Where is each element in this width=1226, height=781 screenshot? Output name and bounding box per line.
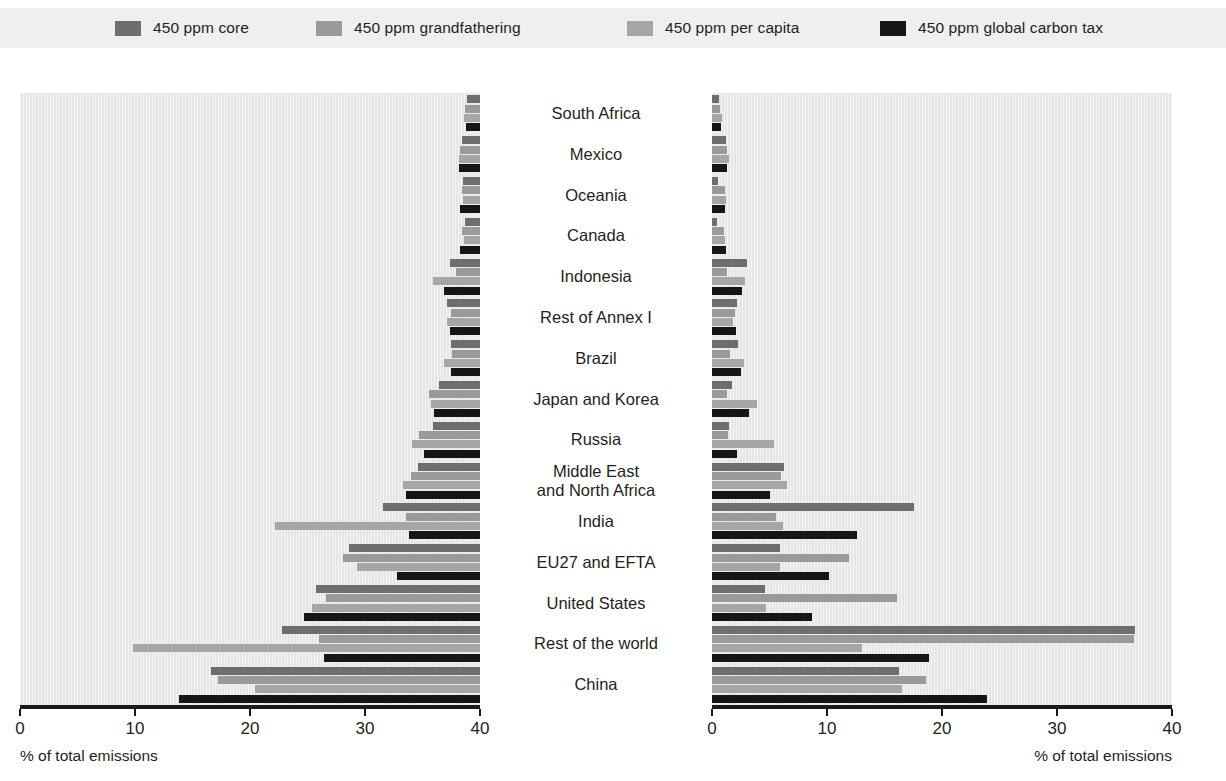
bar-group-row <box>712 134 1172 175</box>
bar-group-row <box>20 460 480 501</box>
bar-group-row <box>20 542 480 583</box>
bar <box>349 544 480 552</box>
bar <box>712 186 725 194</box>
bar <box>466 123 480 131</box>
bar-group-row <box>20 623 480 664</box>
bar <box>712 340 738 348</box>
bar <box>255 685 480 693</box>
bar <box>712 95 719 103</box>
bar-group-row <box>712 583 1172 624</box>
axis-tick <box>249 709 251 716</box>
bar <box>712 123 721 131</box>
bar <box>406 513 480 521</box>
axis-tick <box>19 709 21 716</box>
axis-caption: % of total emissions <box>1034 747 1172 765</box>
bar <box>447 318 480 326</box>
bar <box>357 563 480 571</box>
bar <box>712 287 742 295</box>
category-labels: South AfricaMexicoOceaniaCanadaIndonesia… <box>480 93 712 705</box>
bar <box>712 318 733 326</box>
bar <box>439 381 480 389</box>
bar <box>463 177 480 185</box>
bar <box>462 227 480 235</box>
bar <box>319 635 480 643</box>
bar <box>712 327 736 335</box>
axis-tick-label: 40 <box>471 719 490 739</box>
bar-group-row <box>712 256 1172 297</box>
bar <box>456 268 480 276</box>
bar-group-row <box>712 379 1172 420</box>
bar-group-row <box>20 215 480 256</box>
category-label: Brazil <box>480 349 712 368</box>
bar <box>712 613 812 621</box>
bar <box>712 695 987 703</box>
bar <box>312 604 480 612</box>
bar <box>712 544 780 552</box>
bar <box>451 309 480 317</box>
bar <box>712 594 897 602</box>
bar-group-row <box>20 501 480 542</box>
category-label: EU27 and EFTA <box>480 553 712 572</box>
right-panel <box>712 93 1172 705</box>
bar <box>712 440 774 448</box>
axis-tick <box>134 709 136 716</box>
category-label: Rest of Annex I <box>480 308 712 327</box>
bar <box>460 146 480 154</box>
category-label: South Africa <box>480 104 712 123</box>
bar-group-row <box>712 664 1172 705</box>
bar <box>403 481 480 489</box>
axis-tick-label: 10 <box>818 719 837 739</box>
bar-group-row <box>712 297 1172 338</box>
category-label: Oceania <box>480 186 712 205</box>
bar <box>712 472 781 480</box>
bar <box>343 554 480 562</box>
bar <box>465 218 480 226</box>
bar <box>712 422 729 430</box>
bar <box>712 531 857 539</box>
bar <box>419 431 480 439</box>
axis-tick <box>1056 709 1058 716</box>
bar <box>406 491 480 499</box>
bar <box>712 155 729 163</box>
bar <box>712 635 1134 643</box>
left-panel <box>20 93 480 705</box>
bar <box>712 554 849 562</box>
bar-group-row <box>20 379 480 420</box>
bar <box>712 114 722 122</box>
bar <box>434 409 480 417</box>
bar <box>712 676 926 684</box>
axis-tick-label: 10 <box>126 719 145 739</box>
bar-group-row <box>712 501 1172 542</box>
axis-tick-label: 0 <box>707 719 716 739</box>
bar <box>383 503 480 511</box>
bar <box>451 368 480 376</box>
bar-group-row <box>20 583 480 624</box>
axis-tick <box>711 709 713 716</box>
bar <box>712 105 720 113</box>
bar <box>712 196 726 204</box>
bar <box>712 685 902 693</box>
bar-group-row <box>712 215 1172 256</box>
bar <box>179 695 480 703</box>
bar <box>462 136 480 144</box>
bar <box>712 572 829 580</box>
category-label: Mexico <box>480 145 712 164</box>
bar <box>433 422 480 430</box>
bar <box>429 390 480 398</box>
bar <box>444 359 480 367</box>
axis-tick-label: 40 <box>1163 719 1182 739</box>
bar <box>282 626 480 634</box>
bar <box>450 259 480 267</box>
axis-tick-label: 20 <box>933 719 952 739</box>
category-label: Middle East and North Africa <box>480 462 712 500</box>
bar <box>712 667 899 675</box>
category-label: Russia <box>480 430 712 449</box>
bar <box>712 136 726 144</box>
bar <box>712 390 727 398</box>
bar <box>712 359 744 367</box>
axis-tick <box>479 709 481 716</box>
bar <box>452 350 480 358</box>
bar <box>133 644 480 652</box>
bar <box>431 400 480 408</box>
bar-group-row <box>712 175 1172 216</box>
